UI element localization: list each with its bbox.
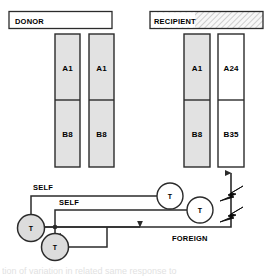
recipient-col-2-top-label: A24: [224, 64, 239, 73]
recipient-header-label: RECIPIENT: [154, 17, 196, 26]
donor-col-1-bottom-label: B8: [62, 130, 73, 139]
recipient-col-1: A1 B8: [184, 34, 210, 167]
donor-col-1: A1 B8: [55, 34, 80, 167]
recipient-col-1-top-label: A1: [192, 64, 203, 73]
tcell-left-lower: T: [42, 234, 69, 261]
recipient-col-1-bottom-label: B8: [192, 130, 203, 139]
tcell-left-upper: T: [18, 215, 45, 242]
recipient-header-box: RECIPIENT: [150, 12, 263, 29]
tcell-mid-right-label: T: [198, 207, 203, 214]
tcell-mid-right: T: [187, 197, 213, 223]
flow-self-mid: [55, 210, 188, 236]
donor-col-2-top-label: A1: [96, 64, 107, 73]
donor-col-2-bottom-label: B8: [96, 130, 107, 139]
flow-lower-loop: [66, 227, 107, 247]
recipient-col-2: A24 B35: [218, 34, 244, 167]
tcell-upper-right: T: [157, 183, 183, 209]
tcell-left-upper-label: T: [29, 225, 34, 232]
label-self-mid: SELF: [59, 198, 79, 207]
flow-self-upper: [31, 196, 157, 219]
tcell-left-lower-label: T: [53, 244, 58, 251]
donor-col-2: A1 B8: [89, 34, 114, 167]
recipient-col-2-bottom-label: B35: [224, 130, 239, 139]
donor-header-box: DONOR: [9, 12, 112, 29]
junction-dot: [53, 225, 58, 230]
tcell-upper-right-label: T: [168, 193, 173, 200]
cut-off-caption: tion of variation in related same respon…: [2, 266, 273, 276]
donor-header-label: DONOR: [15, 17, 44, 26]
label-self-upper: SELF: [33, 183, 53, 192]
donor-col-1-top-label: A1: [62, 64, 73, 73]
label-foreign: FOREIGN: [172, 234, 208, 243]
